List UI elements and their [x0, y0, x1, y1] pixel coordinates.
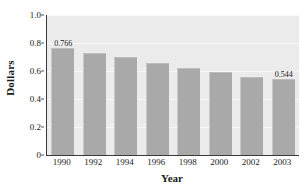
- y-axis-tick-mark: [41, 155, 44, 156]
- y-axis-tick-mark: [41, 127, 44, 128]
- bar[interactable]: [177, 68, 200, 155]
- bar-slot: [142, 15, 174, 155]
- plot-area: 0.7660.544: [46, 15, 299, 156]
- bar-slot: [110, 15, 142, 155]
- bar[interactable]: [146, 63, 169, 155]
- x-axis-tick-label: 2003: [267, 157, 299, 167]
- x-axis-tick-label: 2002: [235, 157, 267, 167]
- bar[interactable]: [114, 57, 137, 155]
- x-axis-tick-label: 1998: [172, 157, 204, 167]
- bar-slot: [205, 15, 237, 155]
- x-axis-tick-label: 2000: [204, 157, 236, 167]
- y-axis-title: Dollars: [2, 0, 18, 155]
- y-axis-title-label: Dollars: [4, 60, 16, 96]
- y-axis-tick-label: 0.2: [30, 122, 41, 132]
- x-axis-tick-label: 1992: [78, 157, 110, 167]
- y-axis-tick-label: 1.0: [30, 10, 41, 20]
- y-axis-tick-mark: [41, 71, 44, 72]
- x-axis-tick-label: 1994: [109, 157, 141, 167]
- x-axis-tick-label: 1996: [141, 157, 173, 167]
- bar-slot: 0.766: [47, 15, 79, 155]
- y-axis-tick-label: 0.8: [30, 38, 41, 48]
- bar-value-label: 0.544: [275, 70, 293, 79]
- bar-slot: 0.544: [268, 15, 300, 155]
- bar-slot: [173, 15, 205, 155]
- bar-chart-figure: Dollars 00.20.40.60.81.0 0.7660.544 1990…: [0, 0, 304, 191]
- bar[interactable]: 0.544: [272, 79, 295, 155]
- bar-slot: [79, 15, 111, 155]
- bar[interactable]: [209, 72, 232, 155]
- y-axis-tick-mark: [41, 15, 44, 16]
- y-axis-tick-mark: [41, 99, 44, 100]
- y-axis-tick-label: 0.6: [30, 66, 41, 76]
- x-axis-tick-label: 1990: [46, 157, 78, 167]
- bar[interactable]: [83, 53, 106, 155]
- bar-slot: [236, 15, 268, 155]
- bar[interactable]: 0.766: [51, 48, 74, 155]
- y-axis-tick-labels: 00.20.40.60.81.0: [18, 0, 44, 160]
- bar-value-label: 0.766: [54, 39, 72, 48]
- bar-series: 0.7660.544: [47, 15, 299, 155]
- y-axis-tick-label: 0.4: [30, 94, 41, 104]
- y-axis-tick-mark: [41, 43, 44, 44]
- x-axis-title: Year: [46, 172, 298, 184]
- x-axis-tick-labels: 19901992199419961998200020022003: [46, 157, 298, 167]
- bar[interactable]: [240, 77, 263, 155]
